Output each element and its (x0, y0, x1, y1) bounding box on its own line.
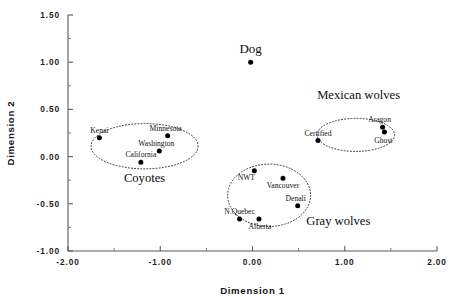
data-point-label: Kenai (90, 126, 108, 135)
y-tick-label: 1.00 (40, 57, 60, 67)
y-tick-label: 0.00 (40, 152, 60, 162)
x-tick-label: 0.00 (243, 257, 263, 267)
x-axis-ticks: -2.00-1.000.001.002.00 (56, 246, 447, 267)
data-point (256, 216, 261, 221)
x-axis-title: Dimension 1 (220, 285, 285, 296)
data-point (380, 125, 385, 130)
data-point (97, 135, 102, 140)
x-tick-label: -1.00 (149, 257, 172, 267)
y-tick-label: 1.50 (40, 10, 60, 20)
data-point-label: Aragon (368, 115, 391, 124)
data-point-label: Ghost (374, 136, 393, 145)
y-tick-label: -0.50 (37, 199, 60, 209)
data-point (280, 176, 285, 181)
x-tick-label: 1.00 (335, 257, 355, 267)
data-point-labels: DogKenaiMinnesotaWashingtonCaliforniaNWT… (90, 41, 393, 231)
cluster-label: Coyotes (124, 171, 165, 185)
plot-canvas: -2.00-1.000.001.002.00 1.501.000.500.00-… (0, 0, 456, 307)
data-point (382, 130, 387, 135)
data-point-label: Minnesota (150, 124, 183, 133)
data-point (237, 216, 242, 221)
cluster-label: Gray wolves (306, 214, 370, 228)
data-point-label: Dog (239, 41, 262, 56)
data-point (138, 160, 143, 165)
data-point-label: Alberta (249, 222, 272, 231)
data-point-label: NWT (238, 173, 256, 182)
data-point-label: Vancouver (267, 181, 300, 190)
data-point (248, 60, 253, 65)
y-tick-label: -1.00 (37, 246, 60, 256)
y-axis-title: Dimension 2 (5, 101, 16, 166)
data-point-label: Denali (286, 194, 306, 203)
data-point (165, 133, 170, 138)
data-point-label: California (125, 150, 156, 159)
data-point (295, 203, 300, 208)
data-point (315, 138, 320, 143)
data-point-label: Washington (138, 139, 174, 148)
y-tick-label: 0.50 (40, 104, 60, 114)
cluster-labels-group: CoyotesGray wolvesMexican wolves (124, 88, 400, 228)
data-point (157, 148, 162, 153)
scatter-plot-figure: -2.00-1.000.001.002.00 1.501.000.500.00-… (0, 0, 456, 307)
x-tick-label: -2.00 (56, 257, 79, 267)
x-tick-label: 2.00 (427, 257, 447, 267)
data-point-label: Certified (304, 129, 331, 138)
cluster-label: Mexican wolves (317, 88, 400, 102)
data-point-label: N.Quebec (224, 207, 255, 216)
